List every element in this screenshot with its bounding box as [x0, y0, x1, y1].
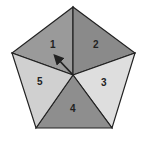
section-label-5: 5: [37, 76, 43, 87]
section-label-4: 4: [70, 103, 76, 114]
section-label-2: 2: [93, 39, 99, 50]
section-label-1: 1: [50, 39, 56, 50]
section-label-3: 3: [101, 77, 107, 88]
pentagon-spinner: 1 2 3 4 5: [0, 0, 145, 142]
